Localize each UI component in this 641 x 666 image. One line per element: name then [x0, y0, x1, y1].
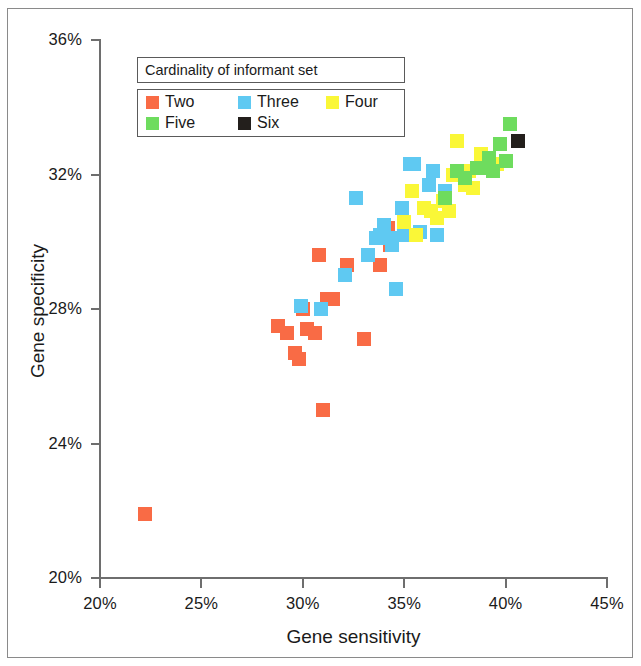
legend-item-four[interactable]: Four [326, 94, 378, 110]
data-point-four [450, 134, 464, 148]
data-point-five [503, 117, 517, 131]
data-point-six [511, 134, 525, 148]
data-point-three [407, 157, 421, 171]
y-axis-tick [91, 308, 100, 310]
y-axis-tick [91, 174, 100, 176]
data-point-two [292, 352, 306, 366]
y-axis-tick [91, 443, 100, 445]
data-point-five [438, 191, 452, 205]
data-point-five [499, 154, 513, 168]
data-point-three [430, 228, 444, 242]
data-point-three [389, 282, 403, 296]
x-axis-tick [99, 579, 101, 588]
y-axis-tick [91, 39, 100, 41]
legend-item-six[interactable]: Six [238, 115, 279, 131]
data-point-three [422, 178, 436, 192]
data-point-five [493, 137, 507, 151]
data-point-three [426, 164, 440, 178]
data-point-three [395, 201, 409, 215]
y-axis-tick-label: 20% [20, 568, 82, 587]
legend-item-three[interactable]: Three [238, 94, 299, 110]
legend-label: Two [165, 94, 194, 110]
data-point-two [312, 248, 326, 262]
legend-swatch-icon [146, 96, 159, 109]
data-point-four [397, 215, 411, 229]
legend-swatch-icon [238, 96, 251, 109]
x-axis-tick [505, 579, 507, 588]
legend-box: TwoThreeFourFiveSix [137, 89, 405, 137]
legend-swatch-icon [326, 96, 339, 109]
legend-label: Five [165, 115, 195, 131]
legend-label: Three [257, 94, 299, 110]
x-axis-title: Gene sensitivity [100, 626, 607, 648]
scatter-plot-figure: 20%24%28%32%36% 20%25%30%35%40%45% Gene … [0, 0, 641, 666]
legend-item-five[interactable]: Five [146, 115, 195, 131]
y-axis-tick-label: 36% [20, 30, 82, 49]
x-axis-tick [200, 579, 202, 588]
data-point-two [326, 292, 340, 306]
data-point-two [316, 403, 330, 417]
data-point-three [377, 218, 391, 232]
x-axis-tick-label: 30% [268, 594, 338, 613]
legend-title-box: Cardinality of informant set [137, 57, 405, 83]
data-point-four [409, 228, 423, 242]
x-axis-tick-label: 40% [471, 594, 541, 613]
legend-label: Six [257, 115, 279, 131]
legend-title: Cardinality of informant set [145, 62, 317, 78]
data-point-three [314, 302, 328, 316]
x-axis-tick-label: 45% [572, 594, 641, 613]
data-point-three [349, 191, 363, 205]
data-point-two [373, 258, 387, 272]
data-point-three [338, 268, 352, 282]
legend-item-two[interactable]: Two [146, 94, 194, 110]
x-axis-tick [606, 579, 608, 588]
data-point-three [294, 299, 308, 313]
data-point-four [405, 184, 419, 198]
legend-label: Four [345, 94, 378, 110]
y-axis-title: Gene specificity [27, 151, 49, 471]
x-axis-tick [302, 579, 304, 588]
data-point-two [280, 326, 294, 340]
x-axis-tick-label: 20% [65, 594, 135, 613]
x-axis-tick [403, 579, 405, 588]
x-axis-tick-label: 25% [166, 594, 236, 613]
data-point-two [357, 332, 371, 346]
x-axis-tick-label: 35% [369, 594, 439, 613]
legend-swatch-icon [238, 117, 251, 130]
data-point-five [482, 151, 496, 165]
data-point-four [442, 204, 456, 218]
data-point-two [138, 507, 152, 521]
data-point-two [308, 326, 322, 340]
legend-swatch-icon [146, 117, 159, 130]
data-point-three [361, 248, 375, 262]
